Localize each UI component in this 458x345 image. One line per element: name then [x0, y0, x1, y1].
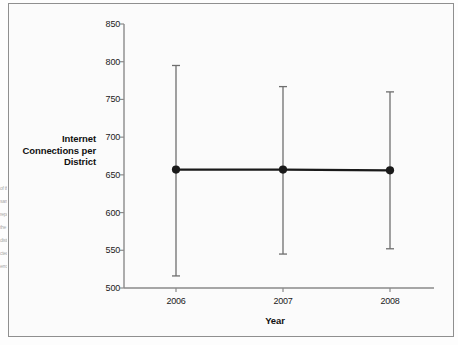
chart-series: [172, 65, 394, 275]
x-axis-tick-label: 2007: [273, 296, 292, 306]
data-point-marker: [386, 166, 394, 174]
x-axis-tick-label: 2008: [380, 296, 399, 306]
x-axis-tick-label: 2006: [166, 296, 185, 306]
data-point-marker: [279, 165, 287, 173]
data-point-marker: [172, 165, 180, 173]
page-background: of th sam repo the distr cted erro Inter…: [0, 0, 458, 345]
error-bar-chart: [0, 0, 458, 345]
chart-axes: [120, 24, 434, 292]
